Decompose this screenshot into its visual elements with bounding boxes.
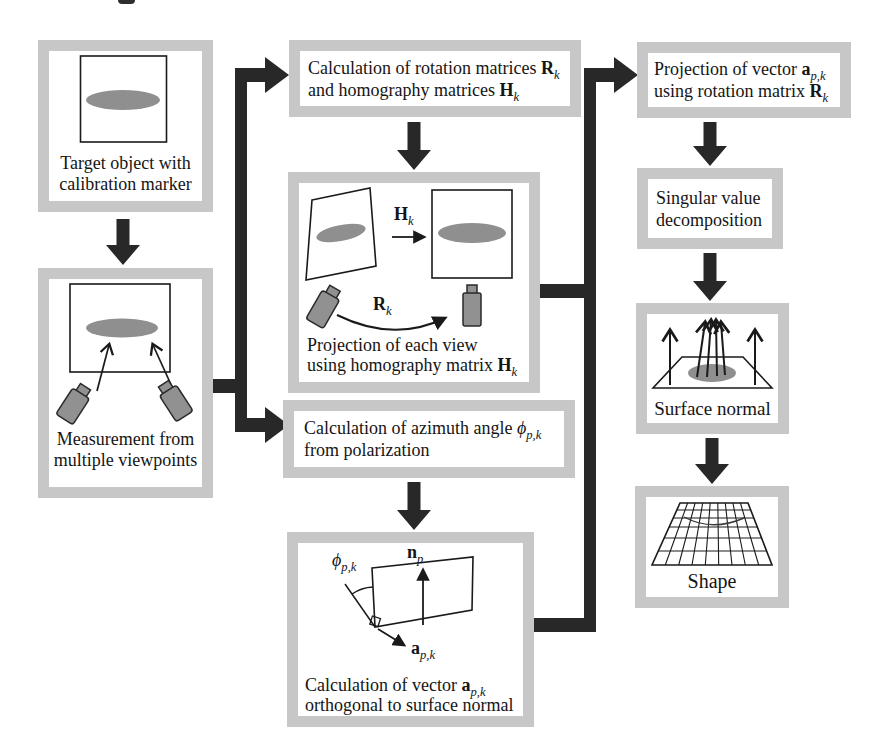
- arrowhead-to-projvec-box: [614, 57, 638, 93]
- target-caption-line2: calibration marker: [49, 174, 202, 195]
- normal-arrow: [716, 321, 717, 376]
- tangent-vector-arrow: [378, 629, 404, 645]
- connector-left-branch: [211, 57, 289, 443]
- ellipse-marker: [688, 364, 736, 382]
- label-normal-vector: np: [407, 543, 423, 561]
- flow-arrow-azimuth-to-ortho: [397, 482, 431, 530]
- flow-arrow-svd-to-normal: [693, 253, 727, 301]
- shape-caption: Shape: [646, 571, 778, 592]
- box-azimuth-angle: Calculation of azimuth angle ϕp,k from p…: [283, 400, 575, 478]
- ellipse-marker: [86, 90, 160, 110]
- box-rotation-homography: Calculation of rotation matrices Rk and …: [289, 40, 581, 117]
- camera-icon: [56, 381, 94, 425]
- calibration-marker-illustration: [49, 51, 202, 153]
- flow-arrow-projvec-to-svd: [693, 122, 727, 166]
- azimuth-angle-arc: [352, 587, 373, 594]
- projvec-text-line2: using rotation matrix Rk: [654, 80, 840, 102]
- grid-outline: [652, 503, 772, 565]
- box-svd: Singular value decomposition: [637, 168, 783, 249]
- shape-grid-illustration: [646, 497, 778, 571]
- rotation-text-line1: Calculation of rotation matrices Rk: [308, 57, 570, 79]
- scan-artifact-speck: [118, 0, 135, 4]
- box-surface-normal: Surface normal: [636, 303, 789, 434]
- flowchart-canvas: Target object with calibration marker Me…: [0, 0, 885, 749]
- box-view-projection: Hk Rk Projection of each view using homo…: [288, 172, 540, 393]
- homography-illustration: [299, 183, 529, 333]
- flow-arrow-rotation-to-projection: [397, 122, 431, 170]
- ortho-caption-line1: Calculation of vector ap,k: [305, 675, 513, 695]
- rotation-text-line2: and homography matrices Hk: [308, 79, 570, 101]
- camera-icon: [155, 378, 193, 422]
- label-homography-matrix: Hk: [394, 205, 414, 223]
- box-vector-projection: Projection of vector ap,k using rotation…: [637, 42, 851, 118]
- projvec-text-line1: Projection of vector ap,k: [654, 58, 840, 80]
- measure-caption-line1: Measurement from: [49, 429, 202, 450]
- box-orthogonal-vector: ϕp,k np ap,k Calculation of vector ap,k …: [287, 532, 534, 727]
- ortho-caption-line2: orthogonal to surface normal: [305, 695, 513, 715]
- camera-icon: [306, 283, 344, 329]
- multi-view-illustration: [49, 279, 202, 429]
- label-azimuth-angle: ϕp,k: [332, 551, 356, 569]
- normal-caption: Surface normal: [647, 398, 778, 419]
- target-caption-line1: Target object with: [49, 153, 202, 174]
- flow-arrow-normal-to-shape: [695, 438, 729, 484]
- box-measurement: Measurement from multiple viewpoints: [38, 268, 213, 498]
- surface-normal-illustration: [647, 314, 778, 398]
- flow-arrow-target-to-measure: [106, 219, 140, 265]
- projection-caption-line2: using homography matrix Hk: [307, 355, 517, 375]
- box-target-object: Target object with calibration marker: [38, 40, 213, 212]
- projection-caption-line1: Projection of each view: [307, 335, 517, 355]
- arrowhead-to-rotation-box: [265, 57, 289, 93]
- connector-right-branch: [534, 57, 638, 632]
- ellipse-marker: [86, 319, 158, 338]
- ellipse-marker: [438, 223, 506, 243]
- azimuth-text-line2: from polarization: [304, 439, 564, 461]
- label-tangent-vector: ap,k: [411, 639, 435, 657]
- camera-icon: [463, 285, 481, 326]
- measure-caption-line2: multiple viewpoints: [49, 450, 202, 471]
- svd-text-line2: decomposition: [656, 209, 772, 231]
- svd-text-line1: Singular value: [656, 187, 772, 209]
- label-rotation-matrix: Rk: [373, 295, 392, 313]
- azimuth-text-line1: Calculation of azimuth angle ϕp,k: [304, 417, 564, 439]
- box-shape: Shape: [635, 486, 789, 608]
